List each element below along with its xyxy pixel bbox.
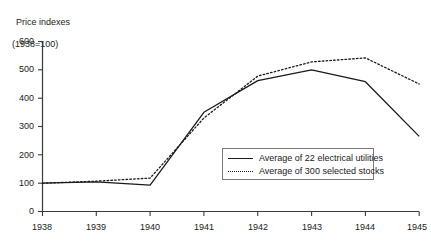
legend-label-selected-stocks: Average of 300 selected stocks (259, 166, 384, 176)
chart-figure: Price indexes (1938=100) (0, 0, 431, 246)
x-tick-label-1941: 1941 (187, 222, 221, 232)
dotted-line-sample-icon (228, 166, 253, 176)
x-tick-label-1945: 1945 (400, 222, 431, 232)
legend-item-electrical-utilities: Average of 22 electrical utilities (228, 151, 383, 165)
legend-label-electrical-utilities: Average of 22 electrical utilities (259, 153, 383, 163)
y-tick-label-0: 0 (8, 206, 34, 216)
y-tick-label-300: 300 (8, 121, 34, 131)
x-tick-label-1938: 1938 (25, 222, 59, 232)
plot-area (0, 0, 431, 246)
y-tick-label-600: 600 (8, 36, 34, 46)
y-tick-label-100: 100 (8, 178, 34, 188)
solid-line-sample-icon (228, 153, 253, 163)
chart-legend: Average of 22 electrical utilities Avera… (222, 148, 374, 180)
x-tick-label-1942: 1942 (241, 222, 275, 232)
x-tick-label-1940: 1940 (133, 222, 167, 232)
x-tick-label-1939: 1939 (79, 222, 113, 232)
x-axis-ticks (43, 212, 420, 217)
y-tick-label-500: 500 (8, 64, 34, 74)
legend-item-selected-stocks: Average of 300 selected stocks (228, 164, 384, 178)
x-tick-label-1944: 1944 (348, 222, 382, 232)
x-tick-label-1943: 1943 (295, 222, 329, 232)
y-tick-label-400: 400 (8, 93, 34, 103)
y-axis-ticks (38, 42, 43, 212)
y-tick-label-200: 200 (8, 150, 34, 160)
